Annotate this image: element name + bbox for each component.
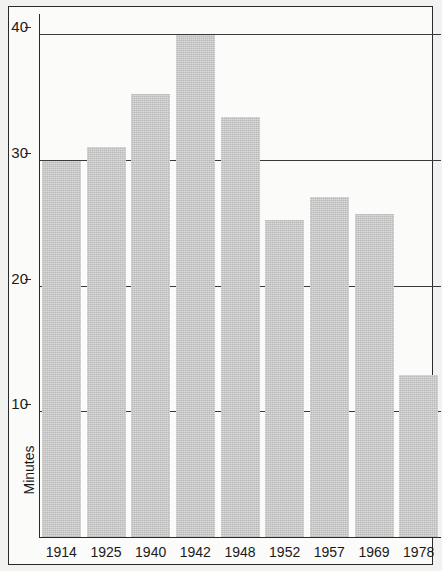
bar xyxy=(131,94,170,538)
x-tick-label: 1948 xyxy=(218,545,263,559)
y-tick-label: 10 xyxy=(8,396,28,411)
bar-series xyxy=(39,14,441,538)
y-tick-label: 40 xyxy=(8,19,28,34)
bar xyxy=(355,214,394,538)
bar xyxy=(265,220,304,538)
x-tick-label: 1914 xyxy=(39,545,84,559)
bar xyxy=(176,35,215,538)
bar xyxy=(42,161,81,538)
chart-frame: 10203040 1914192519401942194819521957196… xyxy=(8,6,433,565)
x-tick-label: 1940 xyxy=(128,545,173,559)
bar xyxy=(221,117,260,538)
x-tick-label: 1957 xyxy=(307,545,352,559)
x-tick-label: 1952 xyxy=(262,545,307,559)
x-axis-labels: 191419251940194219481952195719691978 xyxy=(39,541,441,569)
x-tick-label: 1969 xyxy=(352,545,397,559)
x-tick-label: 1978 xyxy=(396,545,441,559)
bar xyxy=(310,197,349,538)
x-axis-rule xyxy=(39,537,441,538)
x-tick-label: 1942 xyxy=(173,545,218,559)
bar xyxy=(87,147,126,538)
y-tick-label: 20 xyxy=(8,271,28,286)
y-axis-title: Minutes xyxy=(21,436,37,504)
x-tick-label: 1925 xyxy=(84,545,129,559)
bar xyxy=(399,375,438,538)
figure-container: 10203040 1914192519401942194819521957196… xyxy=(0,0,442,571)
y-tick-label: 30 xyxy=(8,145,28,160)
